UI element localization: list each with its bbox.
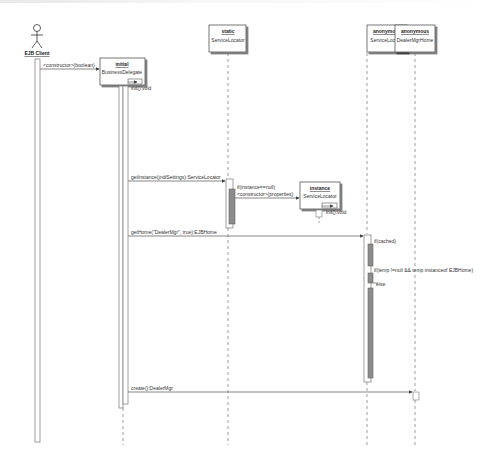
msg-create: create():DealerMgr <box>131 385 173 391</box>
sl2-activation-bar <box>316 210 322 217</box>
lifeline-instance-servicelocator[interactable]: instance ServiceLocator <box>300 182 340 209</box>
sl-name: ServiceLocator <box>211 37 245 43</box>
actor-head-icon <box>34 25 41 32</box>
client-activation-bar <box>35 59 40 442</box>
msg-constructor-boolean: <constructor>(boolean) <box>43 62 95 68</box>
msg-if-temp: if(temp !=null && temp instanceof EJBHom… <box>374 267 473 273</box>
sl2-stereotype: instance <box>310 185 331 191</box>
actor-ejb-client[interactable]: EJB Client <box>24 25 49 57</box>
msg-getinstance: getInstance(jndiSettings):ServiceLocator <box>131 174 221 180</box>
home-stereotype: anonymous <box>401 28 429 34</box>
lifeline-businessdelegate[interactable]: initial BusinessDelegate <box>100 58 145 85</box>
bd-stereotype: initial <box>115 61 129 67</box>
msg-guard-instance-null: if(instance==null) <box>237 184 275 190</box>
asl-activation-else <box>368 288 373 378</box>
msg-if-cached: if(cached) <box>374 238 396 244</box>
sl2-name: ServiceLocator <box>303 193 337 199</box>
lifeline-dealermgrhome[interactable]: anonymous DealerMgrHome <box>395 25 435 52</box>
msg-init-2: init():void <box>326 209 347 215</box>
sl-activation-bar <box>229 189 235 224</box>
actor-label: EJB Client <box>24 50 49 56</box>
asl-activation-cached <box>368 244 373 266</box>
bd-name: BusinessDelegate <box>102 69 143 75</box>
msg-constructor-properties: <constructor>(properties) <box>237 191 293 197</box>
home-name: DealerMgrHome <box>397 37 434 43</box>
lifeline-static-servicelocator[interactable]: static ServiceLocator <box>209 25 246 52</box>
bd-activation-bar <box>119 86 123 408</box>
msg-gethome: getHome("DealerMgr", true):EJBHome <box>131 229 217 235</box>
sl-stereotype: static <box>221 28 234 34</box>
asl-activation-temp <box>368 273 373 283</box>
msg-else: else <box>376 281 385 287</box>
bd-activation-bar-2 <box>123 86 128 404</box>
msg-init-1: init():void <box>131 85 152 91</box>
sequence-diagram: EJB Client initial BusinessDelegate init… <box>0 0 498 465</box>
home-activation-bar <box>413 392 419 400</box>
